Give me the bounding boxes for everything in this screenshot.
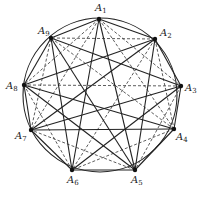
- dashed-segment-A4-A9: [51, 38, 174, 129]
- solid-segment-A2-A8: [24, 39, 155, 85]
- vertex-A5: [133, 168, 137, 172]
- solid-segment-A2-A5: [135, 39, 155, 170]
- label-A5: A5: [130, 174, 143, 187]
- label-A4: A4: [175, 131, 188, 144]
- dashed-segment-A4-A6: [72, 129, 174, 170]
- solid-segment-A6-A7: [31, 130, 72, 170]
- vertex-A8: [22, 83, 26, 87]
- label-A7: A7: [14, 130, 27, 143]
- dashed-segment-A7-A9: [31, 38, 51, 130]
- label-A6: A6: [66, 174, 79, 187]
- label-A1: A1: [94, 2, 107, 15]
- solid-segment-A1-A2: [99, 19, 155, 39]
- solid-segment-A5-A9: [51, 38, 135, 170]
- solid-segment-A4-A7: [31, 129, 174, 130]
- solid-segment-A6-A9: [51, 38, 72, 170]
- label-A2: A2: [159, 27, 172, 40]
- vertex-A3: [179, 84, 183, 88]
- vertex-A2: [153, 37, 157, 41]
- solid-segment-A4-A8: [24, 85, 174, 129]
- label-A8: A8: [5, 80, 18, 93]
- solid-segment-A1-A5: [99, 19, 135, 170]
- vertex-A6: [70, 168, 74, 172]
- solid-segment-A2-A3: [155, 39, 181, 86]
- vertex-A1: [97, 17, 101, 21]
- nonagon-diagram: A1A2A3A4A5A6A7A8A9: [0, 0, 200, 202]
- label-A9: A9: [37, 25, 50, 38]
- vertex-A7: [29, 128, 33, 132]
- solid-segment-A3-A9: [51, 38, 181, 86]
- dashed-segment-A2-A6: [72, 39, 155, 170]
- dashed-segment-A3-A8: [24, 85, 181, 86]
- label-A3: A3: [184, 82, 197, 95]
- dashed-segment-A2-A9: [51, 38, 155, 39]
- solid-segment-A8-A9: [24, 38, 51, 85]
